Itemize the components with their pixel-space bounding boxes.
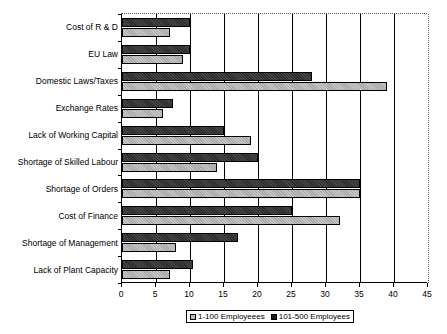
x-tick-label-7: 35 <box>347 289 371 299</box>
bar-1-100-3 <box>122 82 387 91</box>
legend-entry-101-500: 101-500 Employees <box>271 312 350 321</box>
x-tick-mark <box>325 283 326 287</box>
x-tick-mark <box>155 283 156 287</box>
y-tick-label-4: Exchange Rates <box>0 103 118 113</box>
bar-1-100-9 <box>122 243 176 252</box>
y-tick-label-9: Shortage of Management <box>0 238 118 248</box>
plot-area <box>121 14 427 283</box>
y-axis-labels: Cost of R & DEU LawDomestic Laws/TaxesEx… <box>0 14 118 283</box>
bar-101-500-2 <box>122 45 190 54</box>
chart-legend: 1-100 Employeees 101-500 Employees <box>186 310 354 323</box>
x-tick-label-8: 40 <box>381 289 405 299</box>
x-tick-label-4: 20 <box>245 289 269 299</box>
y-tick-label-3: Domestic Laws/Taxes <box>0 76 118 86</box>
bar-group <box>122 202 427 229</box>
x-tick-label-5: 25 <box>279 289 303 299</box>
bar-group <box>122 149 427 176</box>
legend-label-1-100: 1-100 Employeees <box>198 312 265 321</box>
x-tick-mark <box>393 283 394 287</box>
bar-101-500-6 <box>122 153 258 162</box>
bar-1-100-8 <box>122 216 340 225</box>
y-tick-label-7: Shortage of Orders <box>0 184 118 194</box>
bar-101-500-4 <box>122 99 173 108</box>
x-tick-mark <box>427 283 428 287</box>
x-tick-mark <box>189 283 190 287</box>
y-tick-label-10: Lack of Plant Capacity <box>0 265 118 275</box>
bar-1-100-4 <box>122 109 163 118</box>
bar-1-100-1 <box>122 28 170 37</box>
x-tick-label-6: 30 <box>313 289 337 299</box>
bar-1-100-10 <box>122 270 170 279</box>
bar-group <box>122 122 427 149</box>
bar-group <box>122 95 427 122</box>
bar-1-100-6 <box>122 163 217 172</box>
y-tick-label-8: Cost of Finance <box>0 211 118 221</box>
bar-101-500-5 <box>122 126 224 135</box>
bar-1-100-5 <box>122 136 251 145</box>
bar-101-500-10 <box>122 260 193 269</box>
bar-1-100-7 <box>122 189 360 198</box>
legend-entry-1-100: 1-100 Employeees <box>190 312 265 321</box>
x-axis: 051015202530354045 <box>121 283 427 303</box>
x-tick-mark <box>257 283 258 287</box>
bar-chart: Cost of R & DEU LawDomestic Laws/TaxesEx… <box>0 0 447 334</box>
x-tick-mark <box>121 283 122 287</box>
legend-swatch-light-icon <box>190 314 196 320</box>
y-tick-label-2: EU Law <box>0 49 118 59</box>
legend-swatch-dark-icon <box>271 314 277 320</box>
bar-101-500-1 <box>122 18 190 27</box>
bar-101-500-3 <box>122 72 312 81</box>
x-tick-mark <box>291 283 292 287</box>
x-tick-mark <box>223 283 224 287</box>
bar-group <box>122 175 427 202</box>
bar-group <box>122 41 427 68</box>
y-tick-label-5: Lack of Working Capital <box>0 130 118 140</box>
bar-group <box>122 14 427 41</box>
bar-101-500-7 <box>122 179 360 188</box>
bar-group <box>122 68 427 95</box>
y-tick-label-1: Cost of R & D <box>0 22 118 32</box>
x-tick-label-1: 5 <box>143 289 167 299</box>
x-tick-label-0: 0 <box>109 289 133 299</box>
legend-label-101-500: 101-500 Employees <box>279 312 350 321</box>
x-tick-mark <box>359 283 360 287</box>
bar-group <box>122 256 427 283</box>
x-tick-label-2: 10 <box>177 289 201 299</box>
bar-group <box>122 229 427 256</box>
gridline <box>428 14 429 283</box>
bar-101-500-8 <box>122 206 292 215</box>
x-tick-label-9: 45 <box>415 289 439 299</box>
y-tick-label-6: Shortage of Skilled Labour <box>0 157 118 167</box>
x-tick-label-3: 15 <box>211 289 235 299</box>
bar-101-500-9 <box>122 233 238 242</box>
bar-1-100-2 <box>122 55 183 64</box>
